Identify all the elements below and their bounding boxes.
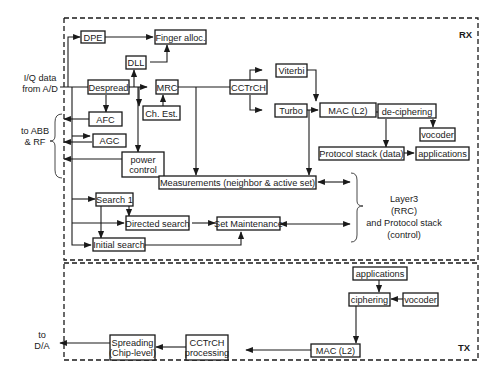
svg-text:Ch. Est.: Ch. Est.	[145, 109, 178, 119]
svg-text:Search 1: Search 1	[96, 195, 133, 205]
svg-text:CCTrCH: CCTrCH	[231, 83, 266, 93]
block-mac-tx: MAC (L2)	[311, 344, 360, 357]
svg-text:de-ciphering: de-ciphering	[382, 107, 433, 117]
block-cctrch-processing: CCTrCH processing	[185, 335, 229, 360]
svg-text:AFC: AFC	[96, 115, 115, 125]
svg-text:Finger alloc.: Finger alloc.	[155, 33, 205, 43]
svg-text:DLL: DLL	[128, 58, 145, 68]
wcdma-transceiver-diagram: RX TX I/Q data from A/D to ABB & RF Laye…	[0, 0, 500, 378]
iq-input-label: I/Q data from A/D	[22, 73, 58, 94]
svg-text:vocoder: vocoder	[404, 295, 437, 305]
svg-text:I/Q data: I/Q data	[24, 73, 58, 83]
block-afc: AFC	[89, 112, 122, 126]
block-finger-alloc: Finger alloc.	[155, 30, 206, 44]
block-agc: AGC	[93, 134, 126, 147]
svg-text:MRC: MRC	[157, 83, 178, 93]
rx-section-label: RX	[459, 29, 473, 40]
svg-text:processing: processing	[185, 348, 229, 358]
svg-text:Set Maintenance: Set Maintenance	[214, 219, 283, 229]
svg-text:(Chip-level): (Chip-level)	[109, 348, 156, 358]
da-output-label: to D/A	[34, 330, 50, 351]
svg-text:D/A: D/A	[34, 341, 50, 351]
svg-text:CCTrCH: CCTrCH	[190, 338, 225, 348]
svg-text:MAC (L2): MAC (L2)	[316, 346, 355, 356]
block-measurements: Measurements (neighbor & active set)	[159, 176, 316, 189]
block-mrc: MRC	[156, 80, 178, 94]
svg-text:Protocol stack (data): Protocol stack (data)	[319, 149, 403, 159]
block-vocoder-rx: vocoder	[420, 128, 455, 141]
svg-text:(control): (control)	[387, 230, 421, 240]
block-initial-search: Initial search	[93, 238, 145, 251]
tx-section-label: TX	[458, 342, 471, 353]
block-despread: Despread	[88, 80, 129, 94]
svg-text:to: to	[38, 330, 46, 340]
block-search1: Search 1	[96, 193, 133, 206]
svg-text:from A/D: from A/D	[22, 84, 58, 94]
svg-text:& RF: & RF	[25, 137, 46, 147]
block-viterbi: Viterbi	[276, 64, 307, 77]
block-applications-rx: applications	[416, 147, 469, 160]
svg-text:Initial search: Initial search	[93, 240, 145, 250]
block-protocol-stack-data: Protocol stack (data)	[319, 147, 404, 160]
block-set-maintenance: Set Maintenance	[214, 217, 283, 230]
svg-text:ciphering: ciphering	[351, 295, 388, 305]
svg-text:to ABB: to ABB	[21, 126, 49, 136]
layer3-label: Layer3 (RRC) and Protocol stack (control…	[366, 194, 442, 240]
block-cctrch: CCTrCH	[230, 80, 267, 94]
block-power-control: power control	[122, 152, 164, 177]
svg-text:and Protocol stack: and Protocol stack	[366, 218, 442, 228]
svg-text:control: control	[129, 165, 157, 175]
svg-text:DPE: DPE	[84, 33, 103, 43]
layer3-brace	[351, 173, 363, 242]
svg-text:applications: applications	[356, 269, 405, 279]
block-turbo: Turbo	[275, 104, 307, 117]
block-applications-tx: applications	[353, 267, 407, 280]
block-mac-rx: MAC (L2)	[320, 103, 376, 117]
abb-rf-label: to ABB & RF	[21, 126, 49, 147]
svg-text:(RRC): (RRC)	[391, 206, 417, 216]
block-dll: DLL	[126, 56, 146, 69]
svg-text:Viterbi: Viterbi	[279, 66, 305, 76]
block-deciphering: de-ciphering	[378, 104, 436, 118]
block-spreading: Spreading (Chip-level)	[109, 335, 156, 360]
svg-text:Despread: Despread	[89, 83, 129, 93]
svg-text:vocoder: vocoder	[421, 130, 454, 140]
svg-text:Spreading: Spreading	[112, 338, 154, 348]
block-vocoder-tx: vocoder	[403, 293, 438, 306]
block-ch-est: Ch. Est.	[143, 106, 180, 120]
abb-rf-brace	[50, 114, 62, 178]
svg-text:power: power	[130, 155, 155, 165]
block-directed-search: Directed search	[125, 216, 189, 230]
block-dpe: DPE	[81, 31, 105, 43]
block-ciphering: ciphering	[349, 293, 390, 306]
svg-text:MAC (L2): MAC (L2)	[328, 106, 367, 116]
svg-text:applications: applications	[418, 149, 467, 159]
svg-text:Turbo: Turbo	[279, 106, 303, 116]
svg-text:Layer3: Layer3	[390, 194, 418, 204]
svg-text:Directed search: Directed search	[125, 219, 189, 229]
svg-text:AGC: AGC	[100, 136, 120, 146]
svg-text:Measurements (neighbor & activ: Measurements (neighbor & active set)	[160, 178, 315, 188]
